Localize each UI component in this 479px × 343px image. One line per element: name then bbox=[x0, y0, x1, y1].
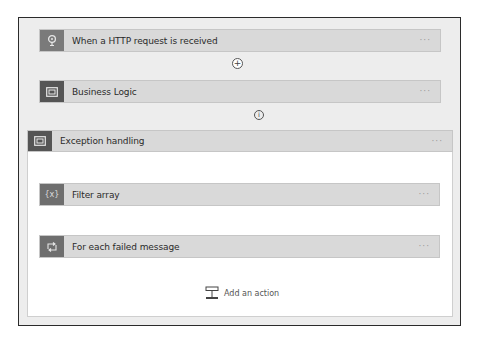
add-circle-icon[interactable]: + bbox=[232, 58, 243, 69]
for-each-card[interactable]: For each failed message ··· bbox=[39, 235, 440, 258]
exception-handling-header[interactable]: Exception handling ··· bbox=[27, 130, 453, 152]
foreach-loop-icon bbox=[40, 236, 64, 257]
filter-array-icon: {x} bbox=[40, 184, 64, 205]
more-options-icon[interactable]: ··· bbox=[431, 137, 452, 146]
add-action-label: Add an action bbox=[224, 289, 279, 298]
request-icon bbox=[40, 30, 64, 51]
more-options-icon[interactable]: ··· bbox=[419, 87, 440, 96]
filter-array-title: Filter array bbox=[64, 190, 418, 200]
more-options-icon[interactable]: ··· bbox=[418, 242, 439, 251]
for-each-title: For each failed message bbox=[64, 242, 418, 252]
scope-icon bbox=[28, 131, 52, 151]
scope-icon bbox=[40, 81, 64, 102]
more-options-icon[interactable]: ··· bbox=[419, 36, 440, 45]
trigger-title: When a HTTP request is received bbox=[64, 36, 419, 46]
trigger-card[interactable]: When a HTTP request is received ··· bbox=[39, 29, 441, 52]
add-action-icon bbox=[205, 286, 219, 300]
business-logic-title: Business Logic bbox=[64, 87, 419, 97]
add-action-button[interactable]: Add an action bbox=[205, 286, 279, 300]
exception-handling-title: Exception handling bbox=[52, 136, 431, 146]
more-options-icon[interactable]: ··· bbox=[418, 190, 439, 199]
filter-array-card[interactable]: {x} Filter array ··· bbox=[39, 183, 440, 206]
info-circle-icon[interactable]: i bbox=[254, 110, 264, 120]
business-logic-card[interactable]: Business Logic ··· bbox=[39, 80, 441, 103]
